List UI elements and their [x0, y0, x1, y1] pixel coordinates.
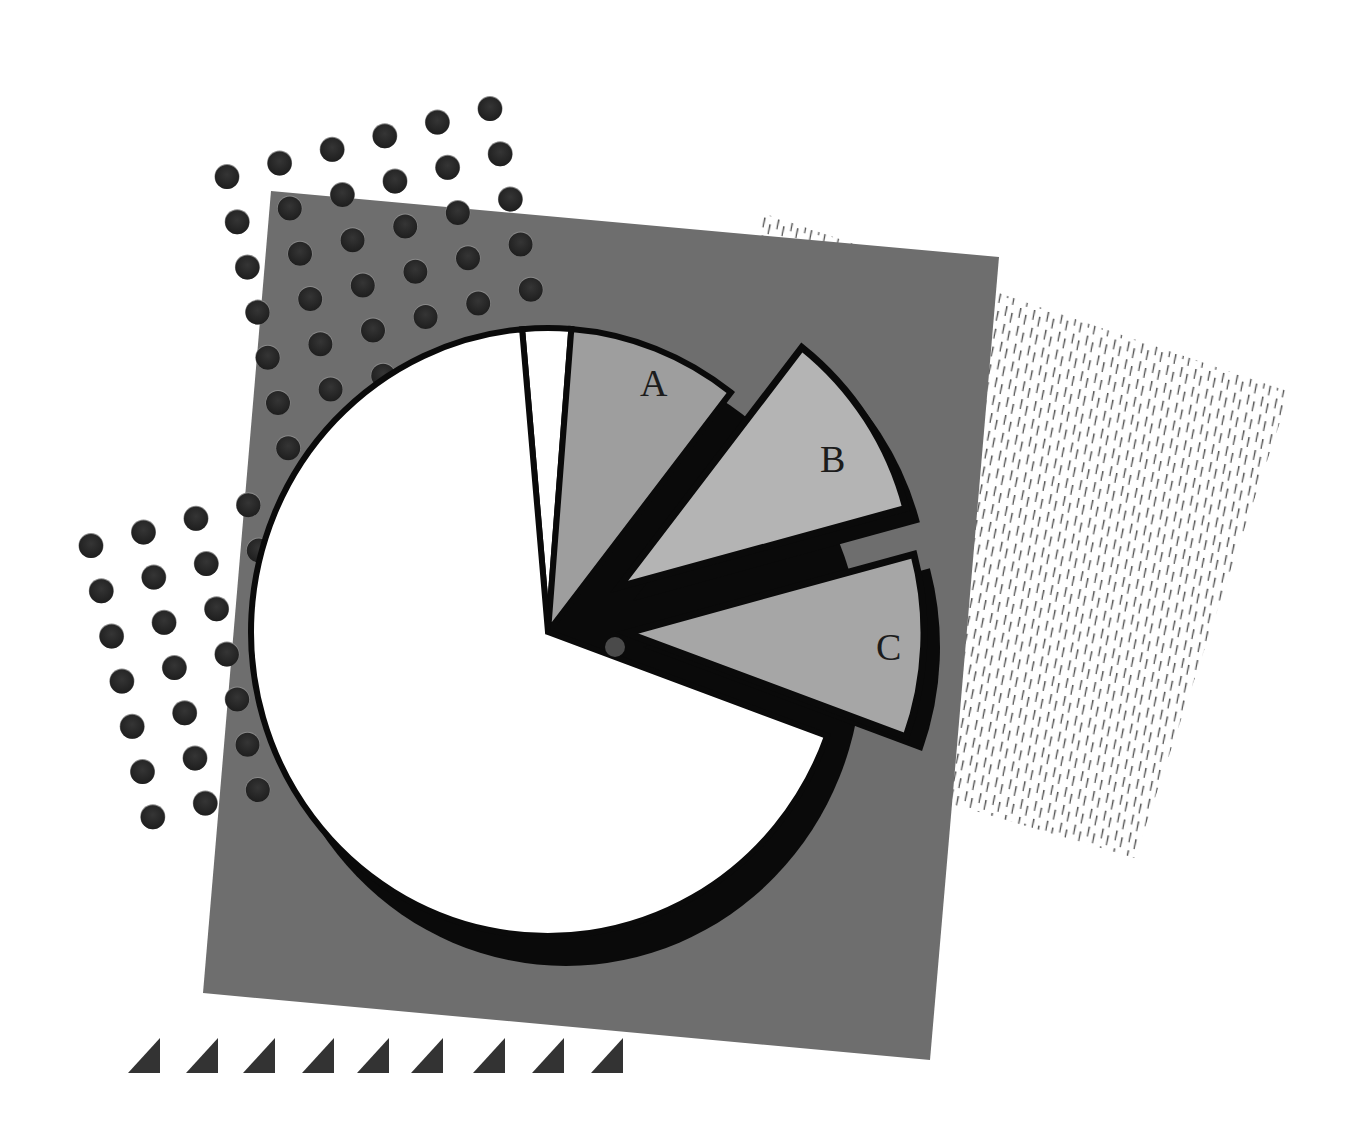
dot	[173, 701, 197, 725]
dot	[194, 552, 218, 576]
dot	[466, 291, 490, 315]
dot	[341, 228, 365, 252]
dot	[246, 301, 270, 325]
dot	[383, 169, 407, 193]
triangle-decoration	[532, 1038, 564, 1073]
dot	[361, 319, 385, 343]
dot	[276, 436, 300, 460]
dot	[235, 255, 259, 279]
dot	[225, 688, 249, 712]
dot	[456, 246, 480, 270]
dot	[236, 733, 260, 757]
dot	[132, 520, 156, 544]
dot	[478, 97, 502, 121]
dot	[162, 656, 186, 680]
dot	[425, 111, 449, 135]
dot	[120, 715, 144, 739]
dot	[184, 507, 208, 531]
dot	[298, 287, 322, 311]
dot	[215, 642, 239, 666]
center-dot	[605, 637, 625, 657]
dot	[278, 197, 302, 221]
triangle-row	[128, 1038, 623, 1073]
dot	[498, 187, 522, 211]
slice-label-b: B	[820, 438, 845, 480]
dot	[131, 760, 155, 784]
triangle-decoration	[128, 1038, 160, 1073]
triangle-decoration	[302, 1038, 334, 1073]
dot	[403, 260, 427, 284]
dot	[100, 624, 124, 648]
dot	[519, 278, 543, 302]
dot	[193, 792, 217, 816]
dot	[183, 746, 207, 770]
dot	[205, 597, 229, 621]
dot	[256, 346, 280, 370]
dot	[288, 242, 312, 266]
dot	[319, 377, 343, 401]
dot	[215, 165, 239, 189]
dot	[237, 493, 261, 517]
triangle-decoration	[473, 1038, 505, 1073]
dot	[509, 233, 533, 257]
dot	[268, 151, 292, 175]
decorative-pie-chart: A B C	[0, 0, 1364, 1142]
slice-label-a: A	[640, 362, 668, 404]
triangle-decoration	[591, 1038, 623, 1073]
dot	[446, 201, 470, 225]
dot	[436, 156, 460, 180]
dot	[393, 215, 417, 239]
triangle-decoration	[357, 1038, 389, 1073]
dot	[414, 305, 438, 329]
dot	[330, 183, 354, 207]
dot	[320, 138, 344, 162]
dot	[246, 778, 270, 802]
dot	[152, 611, 176, 635]
dot	[266, 391, 290, 415]
slice-label-c: C	[876, 626, 901, 668]
dot	[89, 579, 113, 603]
dot	[79, 534, 103, 558]
dot	[225, 210, 249, 234]
triangle-decoration	[243, 1038, 275, 1073]
dot	[308, 332, 332, 356]
triangle-decoration	[411, 1038, 443, 1073]
dot	[141, 805, 165, 829]
dot	[351, 273, 375, 297]
dot	[110, 670, 134, 694]
dot	[488, 142, 512, 166]
dot	[373, 124, 397, 148]
dot	[142, 566, 166, 590]
triangle-decoration	[186, 1038, 218, 1073]
